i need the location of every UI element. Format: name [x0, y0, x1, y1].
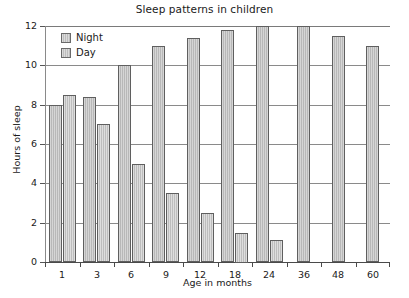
- x-axis-title: Age in months: [45, 277, 390, 288]
- legend-item-night: Night: [61, 31, 139, 45]
- legend-swatch-night-icon: [61, 33, 71, 43]
- x-tick-mark: [389, 262, 390, 267]
- legend-label-day: Day: [76, 48, 96, 58]
- y-tick-mark: [40, 105, 45, 106]
- x-tick-mark: [321, 262, 322, 267]
- sleep-patterns-bar-chart: Sleep patterns in children Hours of slee…: [0, 0, 409, 298]
- x-tick-mark: [183, 262, 184, 267]
- x-tick-mark: [252, 262, 253, 267]
- y-axis-line: [45, 26, 46, 263]
- y-tick-label: 10: [15, 60, 37, 70]
- bar-night: [49, 105, 62, 262]
- y-tick-label: 2: [15, 218, 37, 228]
- bar-night: [118, 65, 131, 262]
- bar-day: [63, 95, 76, 262]
- y-tick-mark: [40, 183, 45, 184]
- x-tick-mark: [356, 262, 357, 267]
- gridline: [45, 26, 390, 27]
- y-tick-mark: [40, 65, 45, 66]
- bar-night: [221, 30, 234, 262]
- y-tick-label: 12: [15, 21, 37, 31]
- bar-day: [166, 193, 179, 262]
- bar-day: [132, 164, 145, 262]
- y-tick-label: 8: [15, 100, 37, 110]
- x-tick-mark: [80, 262, 81, 267]
- legend-swatch-day-icon: [61, 48, 71, 58]
- bar-night: [152, 46, 165, 262]
- plot-area: 024681012 1369121824364860 Night Day: [45, 26, 390, 262]
- y-tick-mark: [40, 26, 45, 27]
- legend-label-night: Night: [76, 33, 103, 43]
- y-tick-label: 6: [15, 139, 37, 149]
- bar-day: [97, 124, 110, 262]
- x-tick-mark: [149, 262, 150, 267]
- legend-item-day: Day: [61, 46, 139, 60]
- x-tick-mark: [45, 262, 46, 267]
- bar-day: [270, 240, 283, 262]
- y-tick-mark: [40, 144, 45, 145]
- bar-night: [83, 97, 96, 262]
- bar-night: [332, 36, 345, 262]
- bar-night: [366, 46, 379, 262]
- y-tick-label: 0: [15, 257, 37, 267]
- y-tick-mark: [40, 223, 45, 224]
- y-tick-label: 4: [15, 178, 37, 188]
- bar-night: [187, 38, 200, 262]
- bar-night: [297, 26, 310, 262]
- x-tick-mark: [218, 262, 219, 267]
- chart-legend: Night Day: [61, 31, 139, 61]
- bar-day: [235, 233, 248, 263]
- bar-day: [201, 213, 214, 262]
- x-tick-mark: [287, 262, 288, 267]
- bar-night: [256, 26, 269, 262]
- chart-title: Sleep patterns in children: [0, 3, 409, 15]
- x-tick-mark: [114, 262, 115, 267]
